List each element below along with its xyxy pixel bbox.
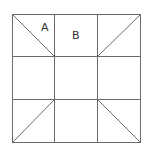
quilt-grid-diagram: A B	[0, 0, 147, 150]
label-b: B	[72, 29, 80, 42]
diagonal-bottom-left	[13, 100, 55, 143]
diagonal-bottom-right	[98, 100, 141, 143]
diagonal-top-right	[98, 15, 141, 57]
label-a: A	[41, 21, 49, 34]
